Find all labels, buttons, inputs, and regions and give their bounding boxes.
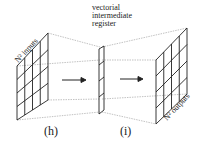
output-label: N² outputs — [162, 92, 192, 123]
caption-h: (h) — [44, 124, 58, 139]
register-label: vectorial intermediate register — [92, 4, 132, 28]
projection-lines — [17, 28, 187, 124]
caption-i: (i) — [120, 124, 131, 139]
intermediate-register — [99, 46, 104, 114]
diagram: N² inputs N² outputs vectorial intermedi… — [0, 0, 203, 154]
arrows — [62, 77, 143, 83]
input-label: N² inputs — [13, 36, 40, 64]
